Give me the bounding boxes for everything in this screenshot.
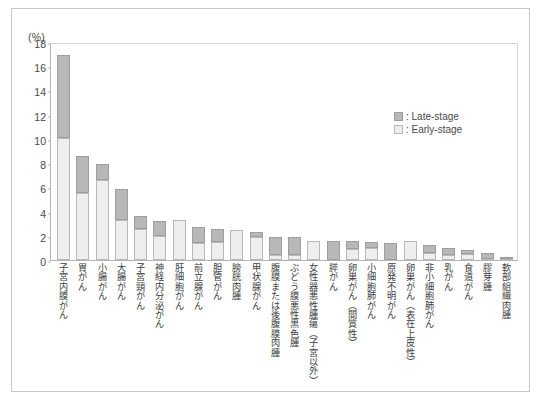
bar-segment-late-stage [57, 55, 70, 137]
bar-segment-late-stage [192, 227, 205, 243]
bar-column [442, 248, 455, 260]
bar-segment-late-stage [211, 229, 224, 242]
bar-segment-early-stage [173, 220, 186, 260]
x-axis-label: 前立腺がん [193, 263, 202, 310]
x-axis-label: 食道がん [462, 263, 471, 301]
x-axis-label: 小腸がん [96, 263, 105, 301]
y-axis-tick-label: 2 [40, 232, 46, 244]
bar-segment-early-stage [115, 220, 128, 260]
bar-column [423, 245, 436, 260]
x-axis-label: 子宮頸がん [135, 263, 144, 310]
bar-segment-late-stage [423, 245, 436, 252]
bar-column [365, 242, 378, 260]
bar-segment-late-stage [153, 221, 166, 236]
legend-label-early-stage: : Early-stage [406, 123, 462, 136]
bar-segment-late-stage [346, 241, 359, 249]
y-axis-tick-label: 10 [34, 135, 46, 147]
x-axis-label: 原発不明がん [385, 263, 394, 319]
bar-column [250, 232, 263, 260]
y-axis-tick-label: 4 [40, 208, 46, 220]
bar-column [461, 250, 474, 260]
bar-column [211, 229, 224, 260]
x-axis-label: 膠芽腫 [482, 263, 491, 291]
bar-segment-early-stage [134, 229, 147, 260]
bar-segment-early-stage [365, 248, 378, 260]
bar-column [500, 258, 513, 260]
x-axis-label: 軟部組織肉腫 [501, 263, 510, 319]
legend-item-late-stage: : Late-stage [394, 110, 462, 123]
bar-column [76, 156, 89, 260]
figure-frame: (%) 024681012141618 : Late-stage : Early… [11, 8, 530, 392]
y-axis-tick-label: 8 [40, 159, 46, 171]
bar-segment-late-stage [481, 253, 494, 259]
bar-segment-early-stage [346, 249, 359, 260]
bar-column [307, 241, 320, 260]
figure-caption [12, 400, 532, 414]
bar-segment-late-stage [269, 237, 282, 255]
bar-segment-late-stage [442, 248, 455, 255]
bar-segment-early-stage [250, 237, 263, 260]
x-axis-label: 甲状腺がん [250, 263, 259, 310]
x-axis-label: 乳がん [443, 263, 452, 291]
bar-segment-late-stage [365, 242, 378, 248]
bar-segment-late-stage [327, 241, 340, 260]
x-axis-label: 卵巣がん（表在上皮性） [405, 263, 414, 366]
x-axis-label: 非小細胞肺がん [424, 263, 433, 329]
bar-segment-late-stage [288, 237, 301, 255]
x-axis-label: 神経内分泌がん [154, 263, 163, 329]
bar-segment-late-stage [134, 216, 147, 228]
bar-column [134, 216, 147, 260]
bar-segment-early-stage [211, 242, 224, 260]
bar-column [384, 243, 397, 260]
bar-segment-early-stage [153, 236, 166, 260]
bar-segment-early-stage [423, 253, 436, 260]
late-stage-swatch [394, 112, 403, 121]
bar-segment-early-stage [404, 241, 417, 260]
bar-segment-early-stage [96, 180, 109, 260]
bar-column [192, 227, 205, 260]
x-axis-label: 子宮内膜がん [58, 263, 67, 319]
y-axis-tick-label: 18 [34, 38, 46, 50]
bar-column [269, 237, 282, 260]
bar-column [173, 220, 186, 260]
x-axis-label: 膀胱肉腫 [231, 263, 240, 301]
x-axis-label: ぶどう膜悪性黒色腫 [289, 263, 298, 348]
early-stage-swatch [394, 125, 403, 134]
bar-segment-late-stage [115, 189, 128, 220]
x-axis-label: 卵巣がん（間質性） [347, 263, 356, 348]
bar-segment-early-stage [269, 255, 282, 260]
bar-column [96, 164, 109, 260]
bar-segment-early-stage [192, 243, 205, 260]
y-axis-tick-label: 14 [34, 86, 46, 98]
y-axis-tick-label: 0 [40, 256, 46, 268]
bar-column [288, 237, 301, 260]
bar-segment-late-stage [96, 164, 109, 180]
x-axis-label: 大腸がん [116, 263, 125, 301]
x-axis-label: 胆管がん [212, 263, 221, 301]
legend-item-early-stage: : Early-stage [394, 123, 462, 136]
x-axis-label-group: 子宮内膜がん胃がん小腸がん大腸がん子宮頸がん神経内分泌がん肝細胞がん前立腺がん胆… [50, 263, 518, 399]
x-axis-label: 小細胞肺がん [366, 263, 375, 319]
bar-series-group [51, 44, 517, 260]
bar-segment-early-stage [57, 138, 70, 260]
bar-column [230, 230, 243, 260]
bar-segment-late-stage [250, 232, 263, 237]
bar-column [153, 221, 166, 260]
y-axis-tick-label: 6 [40, 183, 46, 195]
y-axis-tick-label: 16 [34, 62, 46, 74]
y-axis-tick-label: 12 [34, 111, 46, 123]
x-axis-label: 腹膜または後腹膜肉腫 [270, 263, 279, 357]
bar-segment-early-stage [442, 255, 455, 260]
bar-segment-early-stage [461, 254, 474, 260]
bar-segment-late-stage [500, 257, 513, 259]
bar-segment-early-stage [76, 193, 89, 260]
plot-area: 024681012141618 [50, 43, 518, 261]
bar-segment-late-stage [384, 243, 397, 260]
bar-column [115, 189, 128, 260]
x-axis-label: 肝細胞がん [173, 263, 182, 310]
chart-legend: : Late-stage : Early-stage [394, 110, 462, 136]
x-axis-label: 女性器悪性腫瘍（子宮以外） [308, 263, 317, 385]
x-axis-label: 膵がん [328, 263, 337, 291]
legend-label-late-stage: : Late-stage [406, 110, 459, 123]
bar-segment-early-stage [230, 230, 243, 260]
